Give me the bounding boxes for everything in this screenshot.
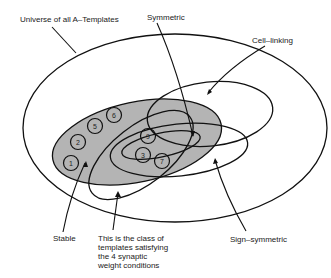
four-conditions-line-1: This is the class of — [98, 234, 168, 243]
sign-symmetric-arrowhead — [213, 158, 218, 164]
universe-label: Universe of all A–Templates — [20, 15, 119, 24]
template-number-7: 7 — [160, 158, 164, 165]
template-number-1: 1 — [69, 160, 73, 167]
template-number-3: 3 — [141, 152, 145, 159]
stable-label: Stable — [53, 234, 76, 243]
four-conditions-line-2: templates satisfying — [98, 243, 168, 252]
four-conditions-arrowhead — [115, 191, 121, 197]
four-conditions-line-3: the 4 synaptic — [98, 252, 168, 261]
template-number-6: 6 — [112, 112, 116, 119]
template-number-9: 9 — [146, 133, 150, 140]
template-number-2: 2 — [76, 139, 80, 146]
stable-ellipse — [45, 85, 230, 199]
cell-linking-pointer — [208, 46, 265, 93]
symmetric-label: Symmetric — [147, 13, 185, 22]
sign-symmetric-pointer — [215, 160, 246, 231]
universe-pointer — [52, 27, 76, 53]
cell-linking-label: Cell–linking — [252, 36, 293, 45]
template-number-5: 5 — [93, 123, 97, 130]
sign-symmetric-label: Sign–symmetric — [230, 235, 287, 244]
four-conditions-line-4: weight conditions — [98, 261, 168, 270]
four-conditions-label: This is the class of templates satisfyin… — [98, 234, 168, 270]
